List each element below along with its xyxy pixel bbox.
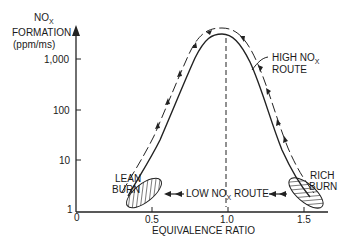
x-axis (76, 207, 328, 212)
y-tick-10: 10 (59, 155, 70, 166)
rich-burn-label-2: BURN (309, 181, 337, 192)
low-nox-route-label: LOW NOX ROUTE (186, 188, 269, 200)
y-tick-1: 1 (67, 204, 73, 215)
y-tick-1000: 1,000 (44, 54, 69, 65)
y-axis-title-line2: FORMATION (12, 27, 71, 38)
x-tick-1.5: 1.5 (297, 214, 311, 225)
y-axis (72, 25, 81, 212)
x-axis-title: EQUIVALENCE RATIO (152, 225, 255, 236)
y-axis-title-line3: (ppm/ms) (13, 39, 55, 50)
x-tick-0.5: 0.5 (145, 214, 159, 225)
lean-burn-label-1: LEAN (115, 173, 141, 184)
high-nox-route-label-1: HIGH NOX (272, 52, 319, 64)
high-nox-route-label-2: ROUTE (272, 64, 307, 75)
rich-burn-label-1: RICH (310, 170, 334, 181)
x-tick-1.0: 1.0 (220, 214, 234, 225)
lean-burn-label-2: BURN (112, 184, 140, 195)
y-axis-arrow-icon (72, 25, 80, 36)
x-tick-0: 0 (74, 212, 80, 223)
y-tick-100: 100 (53, 105, 70, 116)
y-axis-title-line1: NOX (34, 12, 54, 24)
